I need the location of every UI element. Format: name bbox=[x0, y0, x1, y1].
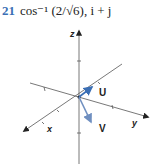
y-axis bbox=[30, 83, 148, 117]
y-axis-label: y bbox=[131, 118, 138, 128]
axes-diagram: z x y U V bbox=[0, 0, 155, 164]
x-axis bbox=[24, 64, 122, 131]
vector-v-label: V bbox=[99, 123, 106, 134]
vector-v bbox=[79, 97, 91, 122]
vector-u-label: U bbox=[99, 87, 106, 98]
x-axis-label: x bbox=[46, 124, 53, 134]
z-axis-label: z bbox=[69, 29, 75, 39]
